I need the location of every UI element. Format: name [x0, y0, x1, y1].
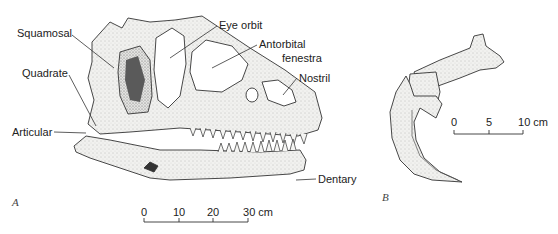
scale-b-tick-10: 10 cm — [518, 116, 548, 128]
label-antorbital: Antorbital — [259, 38, 305, 50]
scale-a-tick-10: 10 — [173, 206, 185, 218]
scale-a-tick-0: 0 — [141, 206, 147, 218]
claw-illustration — [390, 34, 504, 182]
label-fenestra: fenestra — [282, 52, 322, 64]
scale-b-tick-0: 0 — [451, 116, 457, 128]
label-eye-orbit: Eye orbit — [219, 19, 262, 31]
label-dentary: Dentary — [318, 173, 357, 185]
label-nostril: Nostril — [299, 72, 330, 84]
scale-b-tick-5: 5 — [486, 116, 492, 128]
label-quadrate: Quadrate — [22, 67, 68, 79]
label-articular: Articular — [12, 126, 52, 138]
panel-label-b: B — [382, 191, 389, 203]
scale-a-tick-30: 30 cm — [243, 206, 273, 218]
label-squamosal: Squamosal — [17, 27, 72, 39]
panel-label-a: A — [12, 196, 19, 208]
scale-bar-a — [144, 218, 248, 222]
scale-a-tick-20: 20 — [207, 206, 219, 218]
scale-bar-b — [454, 130, 523, 134]
figure-artwork — [0, 0, 558, 234]
